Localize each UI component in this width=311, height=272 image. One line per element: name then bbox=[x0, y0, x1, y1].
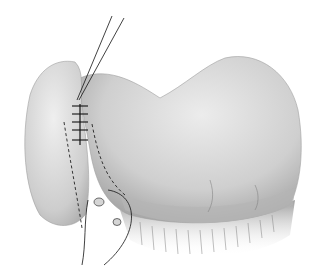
illustration-canvas bbox=[0, 0, 311, 272]
stomach-illustration bbox=[0, 0, 311, 272]
left-loop bbox=[25, 61, 89, 225]
